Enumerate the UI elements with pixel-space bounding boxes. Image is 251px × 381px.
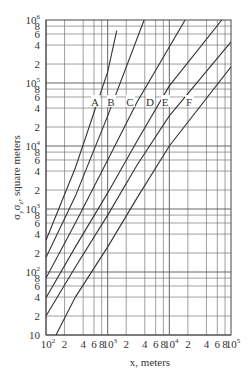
curve-label-a: A <box>91 96 99 108</box>
curve-label-b: B <box>107 96 114 108</box>
y-axis-ticks: 1024681022468103246810424681052468106 <box>26 13 41 341</box>
y-tick-label: 4 <box>35 39 41 51</box>
curve-b <box>46 20 144 258</box>
plot-frame <box>46 20 231 335</box>
x-tick-label: 4 <box>80 338 86 350</box>
y-tick-label: 4 <box>35 291 41 303</box>
x-tick-label: 4 <box>204 338 210 350</box>
chart: ABCDEF 102468102246810324681042468105246… <box>0 0 251 381</box>
x-tick-label: 6 <box>153 338 159 350</box>
y-tick-label: 4 <box>35 228 41 240</box>
grid <box>46 20 231 335</box>
svg-text:σyσz, square meters: σyσz, square meters <box>10 135 25 220</box>
curve-label-e: E <box>162 96 169 108</box>
curve-d <box>46 20 222 298</box>
x-tick-label: 4 <box>142 338 148 350</box>
x-axis-ticks: 102246810324681042468105 <box>41 337 241 350</box>
curve-label-f: F <box>186 96 192 108</box>
y-tick-label: 2 <box>35 184 41 196</box>
curve-f <box>56 67 231 335</box>
y-tick-label: 2 <box>35 58 41 70</box>
x-axis-label: x, meters <box>130 356 170 368</box>
curve-label-d: D <box>146 96 154 108</box>
y-tick-label: 4 <box>35 165 41 177</box>
x-tick-label: 2 <box>185 338 191 350</box>
y-axis-label: σyσz, square meters <box>10 135 25 220</box>
x-tick-label: 105 <box>226 337 241 350</box>
y-tick-label: 2 <box>35 310 41 322</box>
x-tick-label: 103 <box>102 337 117 350</box>
x-tick-label: 2 <box>62 338 68 350</box>
curve-label-c: C <box>126 96 133 108</box>
y-tick-label: 10 <box>29 329 41 341</box>
curves <box>46 20 231 335</box>
x-tick-label: 2 <box>123 338 129 350</box>
x-tick-label: 6 <box>91 338 97 350</box>
x-tick-label: 104 <box>164 337 179 350</box>
y-tick-label: 2 <box>35 247 41 259</box>
x-tick-label: 102 <box>41 337 56 350</box>
y-tick-label: 4 <box>35 102 41 114</box>
curve-c <box>46 20 185 278</box>
x-tick-label: 6 <box>215 338 221 350</box>
y-tick-label: 2 <box>35 121 41 133</box>
